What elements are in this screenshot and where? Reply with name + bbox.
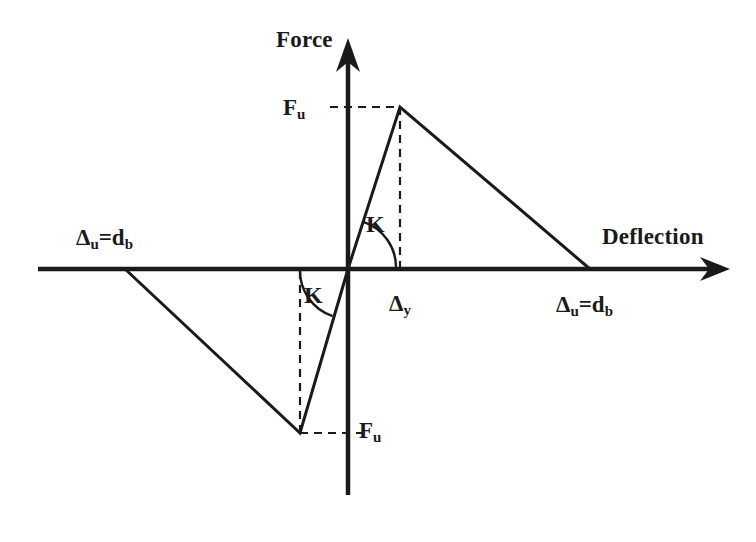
- label-delta-ultimate-left: Δu=db: [76, 226, 133, 252]
- label-du-left-base: Δ: [76, 225, 90, 250]
- label-fu-bottom-subscript: u: [373, 429, 381, 445]
- label-fu-bottom-base: F: [359, 418, 373, 443]
- label-fu-top-subscript: u: [297, 106, 305, 122]
- axis-label-deflection: Deflection: [602, 225, 704, 248]
- label-du-right-equals: =d: [579, 292, 605, 317]
- label-delta-yield-subscript: y: [403, 302, 411, 318]
- label-du-left-subscript-2: b: [125, 236, 133, 252]
- label-stiffness-upper: K: [366, 212, 385, 236]
- positive-branch-group: [348, 107, 590, 269]
- diagram-canvas: [0, 0, 756, 542]
- label-delta-yield-base: Δ: [389, 291, 403, 316]
- positive-branch-curve: [348, 107, 590, 269]
- label-du-right-subscript-1: u: [570, 303, 578, 319]
- label-du-right-base: Δ: [556, 292, 570, 317]
- label-delta-yield: Δy: [389, 292, 411, 318]
- label-delta-ultimate-right: Δu=db: [556, 293, 613, 319]
- force-deflection-diagram: Force Deflection Fu Fu Δy Δu=db Δu=db K …: [0, 0, 756, 542]
- label-du-right-subscript-2: b: [605, 303, 613, 319]
- label-stiffness-lower: K: [304, 283, 323, 307]
- axes-group: [38, 38, 730, 495]
- label-force-ultimate-top: Fu: [283, 96, 305, 122]
- axis-label-force: Force: [276, 28, 333, 51]
- label-du-left-equals: =d: [99, 225, 125, 250]
- label-force-ultimate-bottom: Fu: [359, 419, 381, 445]
- label-fu-top-base: F: [283, 95, 297, 120]
- label-du-left-subscript-1: u: [90, 236, 98, 252]
